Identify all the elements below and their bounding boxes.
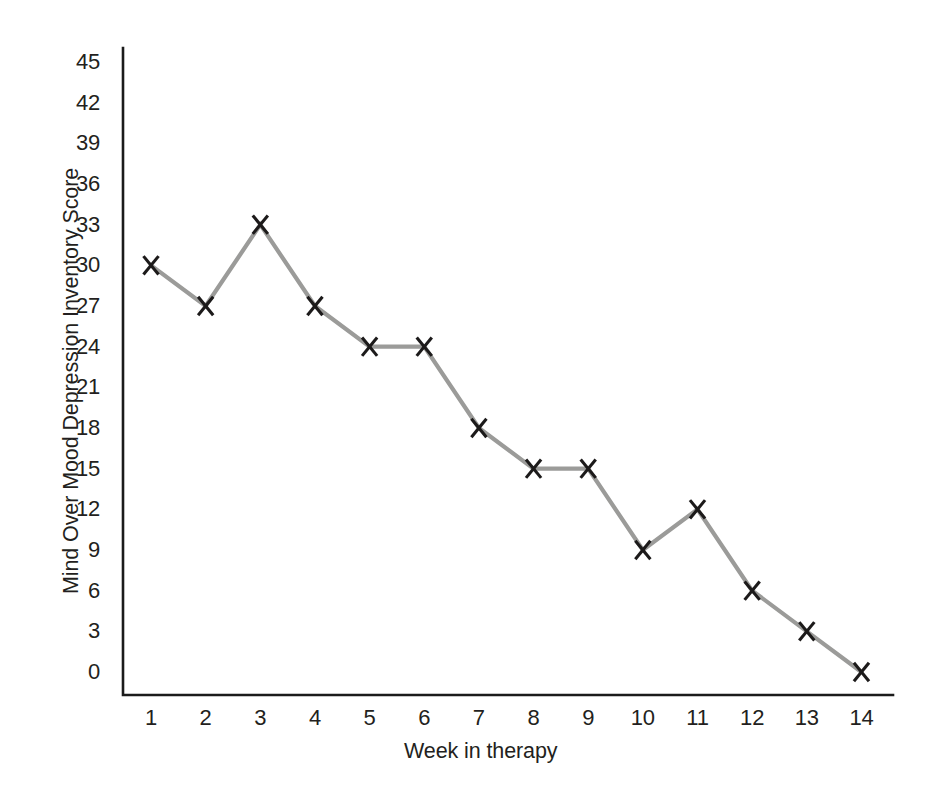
axes (123, 48, 893, 695)
line-chart-figure: Mind Over Mood Depression Inventory Scor… (0, 0, 932, 794)
plot-area (0, 0, 932, 794)
series-line (151, 225, 861, 672)
axis-spines (123, 48, 893, 695)
data-series (151, 225, 861, 672)
